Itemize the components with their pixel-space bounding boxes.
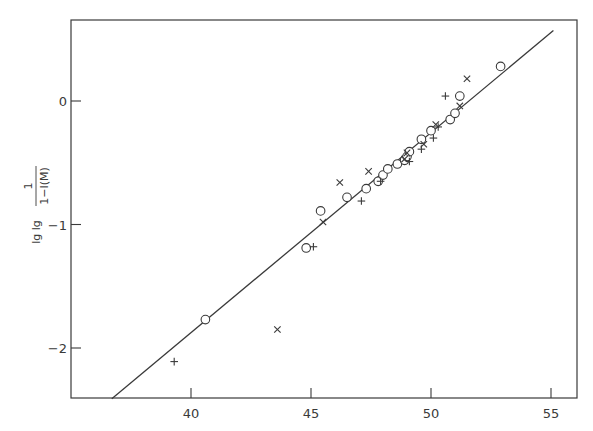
y-label-group: lg lg11−I(M) (22, 166, 51, 244)
chart: 40455055 0−1−2 lg lg11−I(M) (0, 0, 593, 431)
circle-marker (302, 244, 311, 253)
x-tick-label: 45 (303, 406, 320, 421)
circle-marker (343, 193, 352, 202)
y-label-prefix: lg lg (30, 220, 43, 244)
y-label-numerator: 1 (22, 183, 35, 190)
cross-marker (320, 219, 326, 225)
x-tick-label: 40 (183, 406, 200, 421)
circle-marker (316, 207, 325, 216)
y-label-denominator: 1−I(M) (38, 167, 51, 205)
plus-marker (358, 197, 366, 205)
cross-marker (464, 76, 470, 82)
data-points (170, 62, 505, 365)
x-axis: 40455055 (183, 388, 560, 421)
plus-marker (442, 92, 450, 100)
cross-marker (274, 326, 280, 332)
y-tick-label: 0 (59, 94, 67, 109)
x-tick-label: 50 (423, 406, 440, 421)
cross-marker (365, 168, 371, 174)
circle-marker (451, 109, 460, 118)
circle-marker (456, 92, 465, 101)
circle-marker (427, 126, 436, 135)
cross-marker (337, 179, 343, 185)
circle-marker (384, 165, 393, 174)
plus-marker (418, 145, 426, 153)
circle-marker (496, 62, 505, 71)
y-tick-label: −2 (48, 341, 67, 356)
circle-marker (362, 184, 371, 193)
y-axis: 0−1−2 (48, 94, 81, 356)
x-tick-label: 55 (543, 406, 560, 421)
y-tick-label: −1 (48, 218, 67, 233)
circle-marker (201, 315, 210, 324)
fit-line (112, 31, 554, 399)
y-axis-label: lg lg11−I(M) (22, 166, 51, 244)
plus-marker (170, 358, 178, 366)
